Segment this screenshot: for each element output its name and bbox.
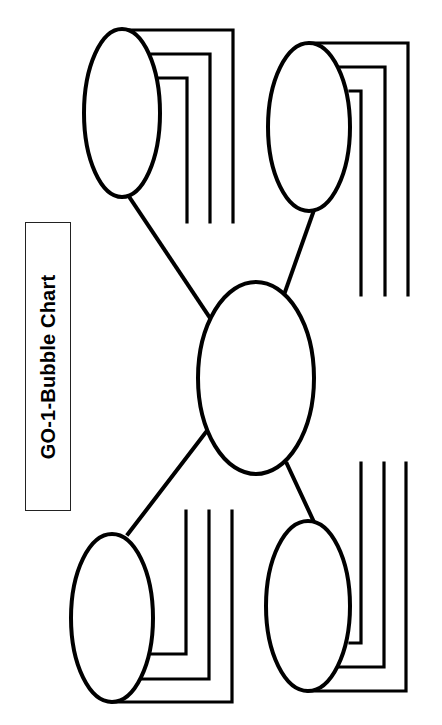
writing-line [158, 78, 187, 222]
bubble-top-left[interactable] [84, 29, 160, 197]
bubble-bottom-right[interactable] [266, 521, 350, 691]
page-title: GO-1-Bubble Chart [37, 274, 60, 459]
bubble-top-right[interactable] [268, 43, 350, 211]
connector-top-right [285, 210, 314, 292]
bubble-chart-diagram: GO-1-Bubble Chart [0, 0, 442, 725]
connector-bottom-right [287, 464, 314, 522]
connector-top-left [130, 198, 210, 318]
writing-line [152, 511, 186, 654]
bubble-center[interactable] [198, 282, 314, 474]
title-box: GO-1-Bubble Chart [25, 222, 71, 511]
bubble-bottom-left[interactable] [71, 534, 153, 702]
connector-bottom-left [128, 432, 206, 534]
